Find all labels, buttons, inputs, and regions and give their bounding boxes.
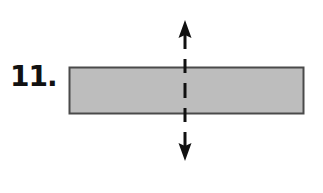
symmetry-figure: [0, 0, 323, 193]
